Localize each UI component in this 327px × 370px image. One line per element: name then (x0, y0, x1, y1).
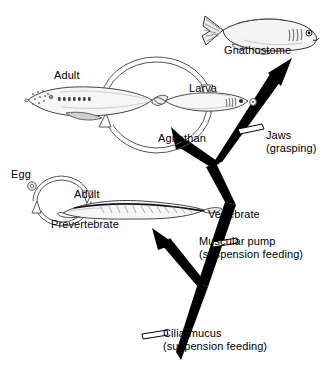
character-label-jaws-line2: (grasping) (266, 142, 317, 155)
taxon-label-prevertebrate: Prevertebrate (51, 218, 119, 231)
taxon-label-gnathostome: Gnathostome (224, 44, 291, 57)
egg-icon (28, 182, 36, 190)
agnathan-cycle-label-adult: Adult (54, 69, 80, 82)
egg-dot-icon (250, 99, 257, 106)
adult-lamprey-icon (25, 87, 168, 120)
character-label-cilia-mucus-line2: (suspension feeding) (163, 340, 267, 353)
prevertebrate-cycle-label-adult: Adult (74, 188, 100, 201)
character-label-jaws-line1: Jaws (266, 129, 291, 142)
branch-label-vertebrate: Vertebrate (208, 208, 260, 221)
prevertebrate-cycle-label-egg: Egg (11, 168, 31, 181)
character-label-muscular-pump-line2: (suspension feeding) (199, 248, 303, 261)
agnathan-cycle-label-larva: Larva (189, 82, 217, 95)
diagram-canvas: Gnathostome Adult Larva Agnathan Jaws (g… (0, 0, 327, 370)
adult-amphioxus-icon (58, 201, 222, 220)
ammocoete-larva-icon (154, 93, 248, 111)
character-label-cilia-mucus-line1: Cilia-mucus (163, 327, 222, 340)
character-label-muscular-pump-line1: Muscular pump (199, 235, 276, 248)
prev-cycle-arrowhead-to-egg (32, 201, 41, 213)
branch-vertebrate-upper (206, 163, 236, 205)
taxon-label-agnathan: Agnathan (158, 132, 206, 145)
